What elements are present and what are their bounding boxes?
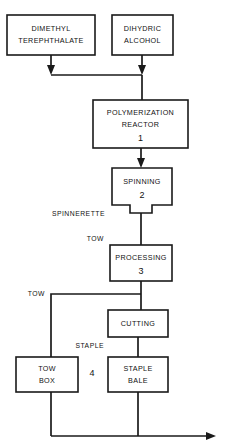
node-dihydric-alcohol-line2: ALCOHOL bbox=[124, 36, 161, 45]
flowchart-canvas: DIMETHYL TEREPHTHALATE DIHYDRIC ALCOHOL … bbox=[0, 0, 225, 448]
edge-label-spinnerette: SPINNERETTE bbox=[52, 210, 105, 217]
node-processing-number: 3 bbox=[138, 266, 143, 276]
node-polymerization-reactor-number: 1 bbox=[138, 133, 143, 143]
node-cutting[interactable]: CUTTING bbox=[108, 310, 168, 337]
node-tow-box-line2: BOX bbox=[39, 376, 55, 385]
arrowhead-output bbox=[206, 432, 216, 440]
arrowhead-alcohol bbox=[138, 65, 146, 75]
node-processing[interactable]: PROCESSING 3 bbox=[110, 245, 172, 281]
node-polymerization-reactor[interactable]: POLYMERIZATION REACTOR 1 bbox=[93, 100, 188, 148]
node-dihydric-alcohol-line1: DIHYDRIC bbox=[124, 24, 162, 33]
node-dimethyl-terephthalate-line1: DIMETHYL bbox=[31, 24, 70, 33]
node-dimethyl-terephthalate[interactable]: DIMETHYL TEREPHTHALATE bbox=[7, 15, 95, 55]
node-processing-line1: PROCESSING bbox=[115, 253, 166, 262]
node-spinning[interactable]: SPINNING 2 bbox=[112, 168, 172, 213]
node-polymerization-reactor-line1: POLYMERIZATION bbox=[107, 108, 174, 117]
edge-label-staple: STAPLE bbox=[75, 342, 104, 349]
edge-label-layer: SPINNERETTE TOW TOW STAPLE bbox=[28, 210, 105, 349]
node-cutting-line1: CUTTING bbox=[121, 319, 155, 328]
group-number-4: 4 bbox=[89, 368, 94, 378]
process-flow-diagram: DIMETHYL TEREPHTHALATE DIHYDRIC ALCOHOL … bbox=[0, 0, 225, 448]
node-tow-box-shape bbox=[16, 357, 78, 392]
node-tow-box-line1: TOW bbox=[38, 364, 56, 373]
node-tow-box[interactable]: TOW BOX bbox=[16, 357, 78, 392]
arrowhead-spinning bbox=[137, 158, 145, 168]
node-dimethyl-terephthalate-line2: TEREPHTHALATE bbox=[18, 36, 84, 45]
node-spinning-line1: SPINNING bbox=[123, 177, 161, 186]
node-staple-bale-line2: BALE bbox=[128, 376, 148, 385]
node-staple-bale[interactable]: STAPLE BALE bbox=[108, 357, 168, 392]
node-dihydric-alcohol[interactable]: DIHYDRIC ALCOHOL bbox=[112, 15, 173, 55]
edge-label-tow-upper: TOW bbox=[87, 235, 104, 242]
node-polymerization-reactor-line2: REACTOR bbox=[122, 120, 159, 129]
arrowhead-dmt bbox=[47, 65, 55, 75]
node-staple-bale-line1: STAPLE bbox=[123, 364, 152, 373]
node-spinning-number: 2 bbox=[139, 190, 144, 200]
node-staple-bale-shape bbox=[108, 357, 168, 392]
edge-label-tow-lower: TOW bbox=[28, 290, 45, 297]
